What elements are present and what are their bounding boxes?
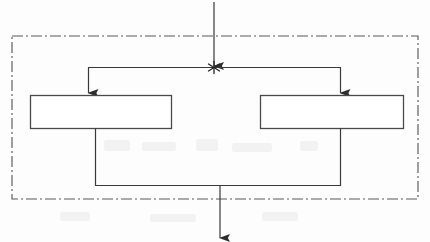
diagram-canvas (0, 0, 430, 242)
scan-ghosting (60, 139, 318, 222)
left-process-box (31, 96, 172, 129)
right-process-box (261, 96, 404, 129)
block-diagram (0, 0, 430, 242)
